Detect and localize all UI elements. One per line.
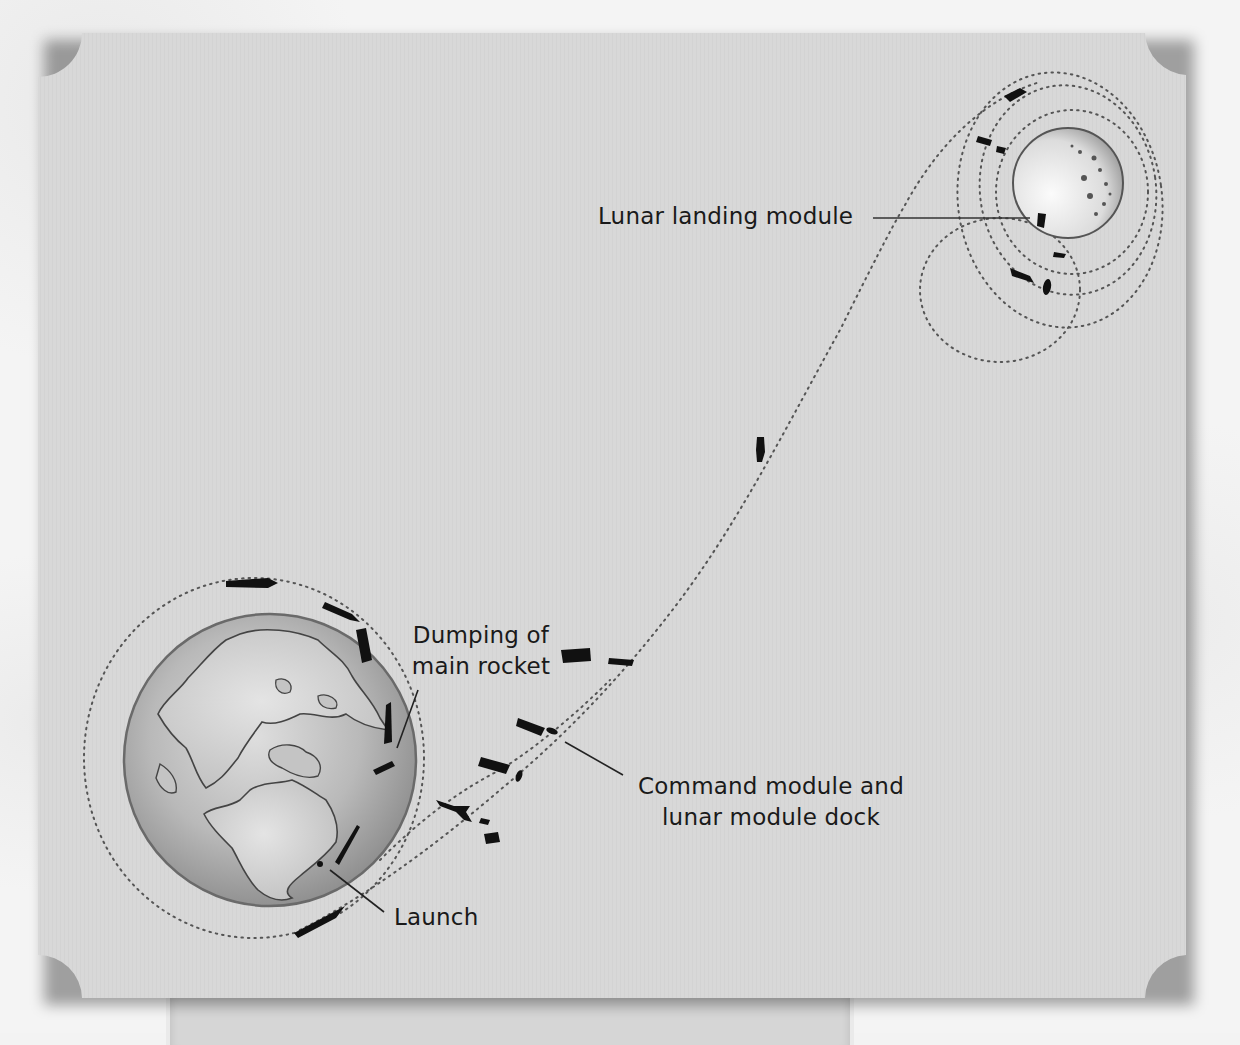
- label-dumping-main-rocket: Dumping of main rocket: [406, 620, 556, 682]
- launch-point-icon: [317, 861, 323, 867]
- label-dock-line1: Command module and: [628, 771, 914, 802]
- label-dumping-line2: main rocket: [406, 651, 556, 682]
- module-icon: [561, 648, 591, 663]
- earth-globe: [124, 614, 416, 906]
- label-dumping-line1: Dumping of: [406, 620, 556, 651]
- module-icon: [484, 832, 500, 844]
- label-lunar-landing-module: Lunar landing module: [598, 201, 853, 232]
- moon-sphere: [1013, 128, 1123, 238]
- label-dock-line2: lunar module dock: [628, 802, 914, 833]
- label-command-module-dock: Command module and lunar module dock: [628, 771, 914, 833]
- label-launch: Launch: [394, 902, 479, 933]
